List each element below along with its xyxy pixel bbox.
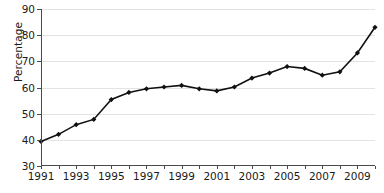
x-tick-label: 2005 (267, 171, 307, 182)
x-tick-mark (129, 166, 130, 169)
x-tick-mark (182, 166, 183, 169)
x-tick-mark (357, 166, 358, 169)
x-tick-label: 1999 (162, 171, 202, 182)
x-tick-label: 1991 (21, 171, 61, 182)
x-tick-mark (234, 166, 235, 169)
x-tick-mark (305, 166, 306, 169)
x-tick-mark (59, 166, 60, 169)
x-tick-mark (164, 166, 165, 169)
x-tick-mark (340, 166, 341, 169)
x-tick-label: 1995 (91, 171, 131, 182)
x-tick-mark (375, 166, 376, 169)
x-tick-label: 1993 (56, 171, 96, 182)
x-tick-label: 1997 (126, 171, 166, 182)
x-tick-mark (322, 166, 323, 169)
x-tick-label: 2009 (337, 171, 377, 182)
x-tick-mark (76, 166, 77, 169)
x-axis-ticks: 1991199319951997199920012003200520072009 (0, 0, 384, 193)
x-tick-label: 2003 (232, 171, 272, 182)
x-tick-mark (146, 166, 147, 169)
x-tick-mark (217, 166, 218, 169)
x-tick-mark (252, 166, 253, 169)
x-tick-mark (199, 166, 200, 169)
x-tick-mark (94, 166, 95, 169)
line-chart: Percentage 30405060708090 19911993199519… (0, 0, 384, 193)
x-tick-label: 2007 (302, 171, 342, 182)
x-tick-label: 2001 (197, 171, 237, 182)
x-tick-mark (270, 166, 271, 169)
x-tick-mark (287, 166, 288, 169)
x-tick-mark (41, 166, 42, 169)
x-tick-mark (111, 166, 112, 169)
